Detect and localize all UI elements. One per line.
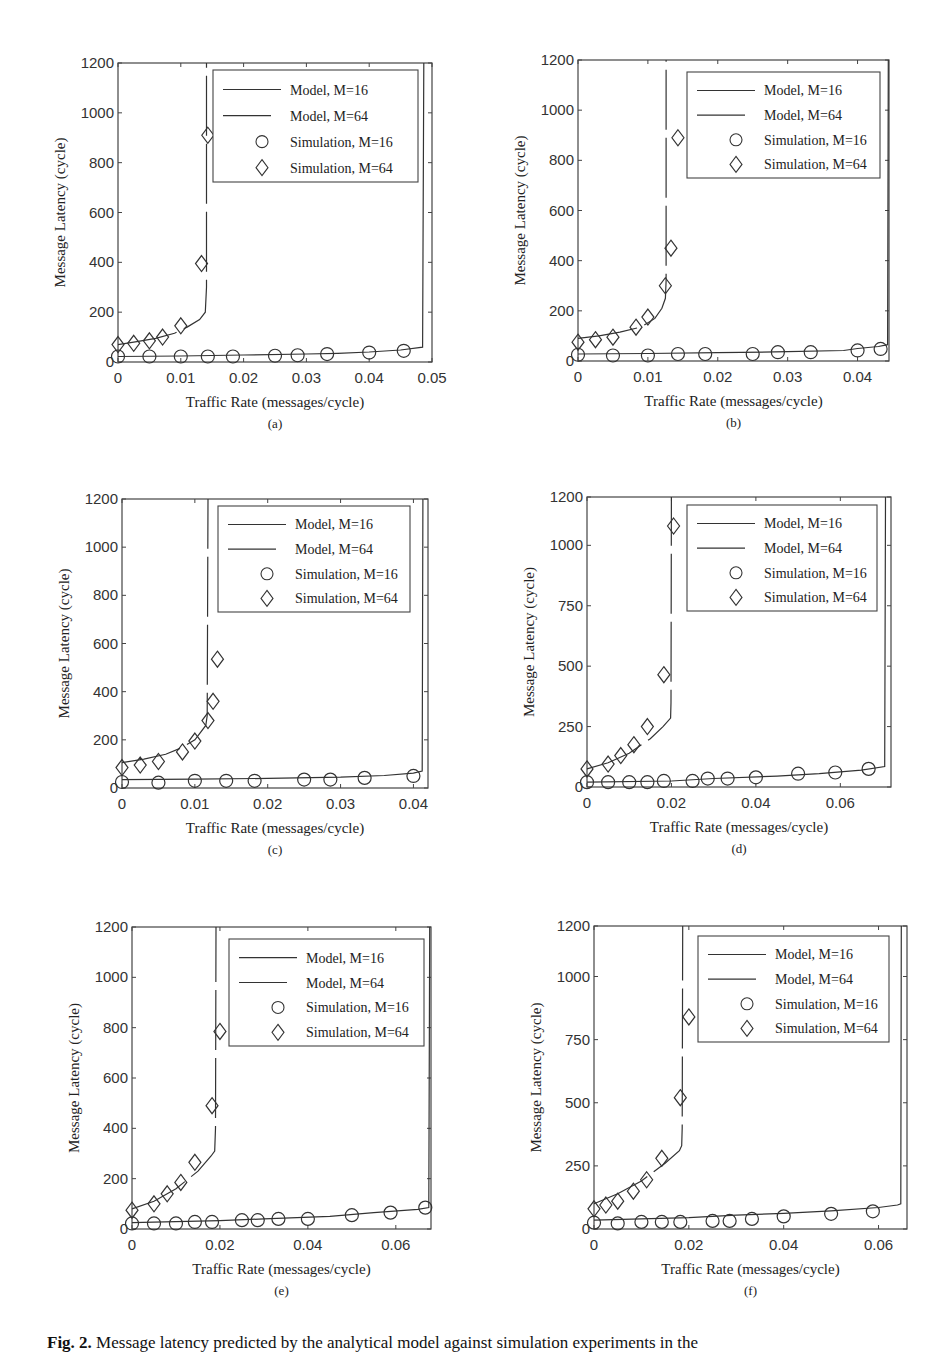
legend-entry-label: Simulation, M=64: [306, 1025, 409, 1040]
legend-entry-label: Simulation, M=64: [764, 157, 867, 172]
chart-panel-d: 02505007501000120000.020.040.06Traffic R…: [521, 488, 891, 856]
subfigure-label: (e): [274, 1283, 288, 1298]
x-tick-label: 0.04: [355, 369, 384, 386]
x-tick-label: 0.03: [773, 368, 802, 385]
x-tick-label: 0.02: [253, 795, 282, 812]
caption-label: Fig. 2.: [47, 1333, 92, 1352]
y-tick-label: 500: [558, 657, 583, 674]
y-tick-label: 1200: [541, 51, 574, 68]
x-tick-label: 0: [590, 1236, 598, 1253]
x-axis-label: Traffic Rate (messages/cycle): [186, 820, 364, 837]
legend-entry-label: Model, M=64: [775, 972, 853, 987]
legend: Model, M=16Model, M=64Simulation, M=16Si…: [229, 939, 424, 1046]
circle-marker: [825, 1207, 838, 1220]
x-tick-label: 0.02: [703, 368, 732, 385]
y-tick-label: 800: [89, 154, 114, 171]
x-tick-label: 0.03: [326, 795, 355, 812]
diamond-marker: [668, 518, 680, 534]
circle-marker: [301, 1212, 314, 1225]
x-tick-label: 0: [114, 369, 122, 386]
x-axis-label: Traffic Rate (messages/cycle): [661, 1261, 839, 1278]
y-axis-label: Message Latency (cycle): [528, 1003, 545, 1153]
chart-panel-a: 02004006008001000120000.010.020.030.040.…: [52, 54, 447, 431]
y-tick-label: 800: [93, 586, 118, 603]
circle-marker: [804, 346, 817, 359]
diamond-marker: [658, 667, 670, 683]
y-tick-label: 400: [93, 683, 118, 700]
x-tick-label: 0.01: [180, 795, 209, 812]
series-model-m-64: [122, 499, 208, 763]
legend: Model, M=16Model, M=64Simulation, M=16Si…: [213, 70, 418, 182]
y-tick-label: 250: [565, 1157, 590, 1174]
y-tick-label: 800: [549, 151, 574, 168]
y-tick-label: 1200: [81, 54, 114, 71]
circle-marker: [201, 350, 214, 363]
circle-marker: [777, 1210, 790, 1223]
y-tick-label: 400: [549, 252, 574, 269]
legend-entry-label: Simulation, M=16: [764, 566, 867, 581]
y-tick-label: 800: [103, 1019, 128, 1036]
y-tick-label: 750: [558, 597, 583, 614]
legend-entry-label: Model, M=16: [306, 951, 384, 966]
y-tick-label: 200: [103, 1170, 128, 1187]
series-model-m-64: [132, 927, 216, 1209]
y-tick-label: 1000: [550, 536, 583, 553]
y-tick-label: 1200: [550, 488, 583, 505]
y-tick-label: 600: [103, 1069, 128, 1086]
circle-marker: [671, 347, 684, 360]
legend-entry-label: Simulation, M=16: [306, 1000, 409, 1015]
chart-panel-f: 02505007501000120000.020.040.06Traffic R…: [528, 917, 907, 1298]
circle-marker: [251, 1214, 264, 1227]
y-tick-label: 500: [565, 1094, 590, 1111]
series-simulation-m-16: [126, 1201, 432, 1230]
legend-entry-label: Model, M=64: [306, 976, 384, 991]
circle-marker: [206, 1215, 219, 1228]
diamond-marker: [196, 256, 208, 272]
circle-marker: [269, 349, 282, 362]
x-tick-label: 0.06: [864, 1236, 893, 1253]
legend: Model, M=16Model, M=64Simulation, M=16Si…: [687, 505, 877, 611]
legend-entry-label: Simulation, M=16: [764, 133, 867, 148]
y-axis-label: Message Latency (cycle): [52, 138, 69, 288]
circle-marker: [358, 771, 371, 784]
circle-marker: [169, 1217, 182, 1230]
circle-marker: [152, 776, 165, 789]
circle-marker: [298, 773, 311, 786]
circle-marker: [291, 349, 304, 362]
y-tick-label: 400: [89, 253, 114, 270]
legend-entry-label: Simulation, M=16: [775, 997, 878, 1012]
series-simulation-m-64: [581, 518, 680, 777]
diamond-marker: [202, 713, 214, 729]
circle-marker: [248, 774, 261, 787]
subfigure-label: (d): [731, 841, 746, 856]
series-model-m-64: [578, 60, 666, 338]
diamond-marker: [600, 1197, 612, 1213]
diamond-marker: [189, 1154, 201, 1170]
y-axis-label: Message Latency (cycle): [521, 567, 538, 717]
x-axis-label: Traffic Rate (messages/cycle): [192, 1261, 370, 1278]
y-tick-label: 1000: [81, 104, 114, 121]
x-tick-label: 0.04: [769, 1236, 798, 1253]
legend: Model, M=16Model, M=64Simulation, M=16Si…: [218, 506, 410, 612]
y-tick-label: 200: [549, 302, 574, 319]
chart-panel-b: 02004006008001000120000.010.020.030.04Tr…: [512, 51, 889, 430]
circle-marker: [220, 774, 233, 787]
figure-caption: Fig. 2. Message latency predicted by the…: [47, 1333, 698, 1353]
diamond-marker: [607, 329, 619, 345]
y-tick-label: 1200: [95, 918, 128, 935]
legend-entry-label: Simulation, M=64: [295, 591, 398, 606]
legend-entry-label: Simulation, M=16: [295, 567, 398, 582]
y-tick-label: 200: [89, 303, 114, 320]
diamond-marker: [683, 1009, 695, 1025]
circle-marker: [384, 1206, 397, 1219]
y-tick-label: 400: [103, 1119, 128, 1136]
circle-marker: [723, 1214, 736, 1227]
x-tick-label: 0.05: [417, 369, 446, 386]
series-simulation-m-64: [112, 127, 214, 352]
diamond-marker: [665, 240, 677, 256]
circle-marker: [655, 1215, 668, 1228]
series-simulation-m-16: [112, 344, 411, 363]
y-tick-label: 600: [93, 635, 118, 652]
x-tick-label: 0.02: [657, 794, 686, 811]
series-simulation-m-64: [572, 130, 684, 350]
